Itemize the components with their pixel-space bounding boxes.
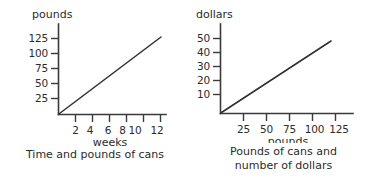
- x-tick-label-left-0: 2: [72, 124, 78, 136]
- x-tick-label-right-1: 50: [260, 123, 273, 135]
- chart-plot-area-left: pounds 125 100 75 50 25: [0, 0, 190, 146]
- chart-figure-dollars-per-pound: dollars 50 40 30 20 10: [188, 0, 379, 184]
- x-axis-title-left: weeks: [93, 136, 128, 146]
- y-tick-label-right-0: 50: [197, 32, 210, 44]
- y-tick-label-left-2: 75: [35, 62, 48, 74]
- x-axis-ticks-right: [244, 114, 336, 122]
- x-tick-label-right-2: 75: [283, 123, 296, 135]
- chart-figure-cans-over-time: pounds 125 100 75 50 25: [0, 0, 190, 184]
- y-tick-label-left-0: 125: [29, 32, 48, 44]
- x-tick-label-left-5: 12: [151, 124, 164, 136]
- y-tick-label-left-4: 25: [35, 92, 48, 104]
- chart-caption-right: Pounds of cans and number of dollars: [188, 145, 379, 173]
- y-axis-title-left: pounds: [32, 8, 73, 21]
- y-tick-label-right-3: 20: [197, 74, 210, 86]
- y-tick-label-right-2: 30: [197, 60, 210, 72]
- x-tick-label-right-3: 100: [305, 123, 324, 135]
- y-tick-label-left-3: 50: [35, 77, 48, 89]
- x-tick-label-left-3: 8: [119, 124, 125, 136]
- x-tick-label-left-1: 4: [87, 124, 94, 136]
- y-tick-label-right-1: 40: [197, 46, 210, 58]
- x-tick-label-left-2: 6: [105, 124, 112, 136]
- y-axis-ticks-right: [213, 39, 221, 95]
- data-series-line-right: [222, 41, 332, 113]
- chart-caption-left: Time and pounds of cans: [0, 148, 190, 162]
- y-tick-label-left-1: 100: [29, 47, 48, 59]
- data-series-line-left: [60, 37, 162, 114]
- x-axis-title-right: pounds: [268, 135, 309, 143]
- chart-plot-area-right: dollars 50 40 30 20 10: [188, 0, 379, 143]
- x-tick-label-left-4: 10: [129, 124, 142, 136]
- x-tick-label-right-4: 125: [329, 123, 348, 135]
- y-axis-title-right: dollars: [196, 8, 233, 21]
- y-axis-ticks-left: [51, 39, 59, 99]
- y-tick-label-right-4: 10: [197, 88, 210, 100]
- figure-page: pounds 125 100 75 50 25: [0, 0, 379, 184]
- x-axis-ticks-left: [76, 115, 161, 123]
- x-tick-label-right-0: 25: [237, 123, 250, 135]
